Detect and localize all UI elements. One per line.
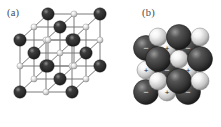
cation-sphere bbox=[97, 37, 103, 43]
anion-sphere bbox=[14, 34, 26, 46]
anion-sphere bbox=[188, 47, 213, 72]
anion-sphere bbox=[66, 86, 78, 98]
ion-spheres: −+−+−+−+− bbox=[134, 25, 213, 105]
cation-sphere bbox=[31, 76, 37, 82]
panel-b: (b) −+−+−+−+− bbox=[110, 0, 221, 127]
anion-sphere bbox=[146, 47, 171, 72]
cation-sphere bbox=[83, 76, 89, 82]
figure-root: (a) (b) −+−+−+−+− bbox=[0, 0, 221, 127]
cation-sphere bbox=[149, 72, 167, 90]
cation-sphere bbox=[71, 11, 77, 17]
positive-charge-label: + bbox=[165, 88, 170, 97]
anion-sphere bbox=[94, 60, 106, 72]
anion-sphere bbox=[167, 69, 192, 94]
cation-sphere bbox=[83, 24, 89, 30]
lattice-ball-and-stick-diagram bbox=[0, 0, 110, 127]
cation-sphere bbox=[191, 72, 209, 90]
positive-charge-label: + bbox=[144, 66, 149, 75]
ionic-packing-diagram: −+−+−+−+− bbox=[110, 0, 221, 127]
anion-sphere bbox=[54, 73, 66, 85]
anion-sphere bbox=[54, 21, 66, 33]
anion-sphere bbox=[94, 8, 106, 20]
negative-charge-label: − bbox=[143, 87, 148, 97]
panel-a: (a) bbox=[0, 0, 110, 127]
negative-charge-label: − bbox=[143, 43, 148, 53]
cation-sphere bbox=[149, 28, 167, 46]
anion-sphere bbox=[68, 34, 80, 46]
cation-sphere bbox=[170, 50, 188, 68]
cation-sphere bbox=[71, 63, 77, 69]
anion-sphere bbox=[80, 47, 92, 59]
cation-sphere bbox=[57, 50, 63, 56]
anion-sphere bbox=[42, 60, 54, 72]
cation-sphere bbox=[17, 63, 23, 69]
anion-sphere bbox=[28, 47, 40, 59]
cation-sphere bbox=[45, 37, 51, 43]
cation-sphere bbox=[31, 24, 37, 30]
anion-sphere bbox=[167, 25, 192, 50]
cation-sphere bbox=[191, 28, 209, 46]
cation-sphere bbox=[43, 89, 49, 95]
anion-sphere bbox=[42, 8, 54, 20]
anion-sphere bbox=[14, 86, 26, 98]
